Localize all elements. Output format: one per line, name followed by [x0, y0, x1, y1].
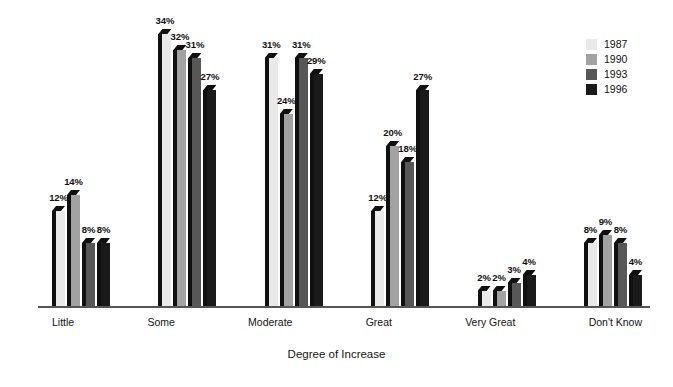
- bar-value-label: 27%: [201, 71, 220, 82]
- bar-value-label: 12%: [368, 192, 387, 203]
- bar-front-face: [314, 74, 323, 307]
- bar-value-label: 34%: [156, 15, 175, 26]
- bar-front-face: [177, 50, 186, 307]
- bar: 20%: [386, 146, 399, 307]
- x-axis-tick-label: Little: [52, 316, 74, 328]
- bar: 8%: [584, 243, 597, 307]
- bar-value-label: 3%: [507, 264, 521, 275]
- legend-label: 1990: [604, 54, 627, 65]
- bar-value-label: 14%: [64, 176, 83, 187]
- bar-value-label: 20%: [383, 127, 402, 138]
- bar: 29%: [310, 74, 323, 307]
- bar-value-label: 2%: [492, 272, 506, 283]
- bar: 32%: [173, 50, 186, 307]
- bar: 4%: [629, 275, 642, 307]
- bar-group: 34%32%31%27%: [158, 18, 216, 307]
- bar-group: 12%14%8%8%: [52, 18, 110, 307]
- bar: 2%: [493, 291, 506, 307]
- bar: 12%: [52, 211, 65, 307]
- legend-label: 1987: [604, 39, 627, 50]
- x-axis-title: Degree of Increase: [0, 348, 673, 360]
- bar: 8%: [97, 243, 110, 307]
- bar-front-face: [633, 275, 642, 307]
- bar: 3%: [508, 283, 521, 307]
- legend-label: 1996: [604, 84, 627, 95]
- bar-group: 31%24%31%29%: [265, 18, 323, 307]
- bar: 4%: [523, 275, 536, 307]
- bar: 8%: [614, 243, 627, 307]
- bar-value-label: 12%: [49, 192, 68, 203]
- bar-front-face: [299, 58, 308, 307]
- bar: 27%: [416, 90, 429, 307]
- bar-group: 2%2%3%4%: [478, 18, 536, 307]
- x-axis-tick-label: Great: [366, 316, 392, 328]
- bar-value-label: 8%: [82, 224, 96, 235]
- bar-front-face: [375, 211, 384, 307]
- bar-value-label: 27%: [413, 71, 432, 82]
- legend-swatch: [586, 69, 597, 80]
- bar-value-label: 9%: [599, 216, 613, 227]
- legend-item: 1990: [586, 53, 627, 66]
- x-axis-tick-label: Some: [147, 316, 174, 328]
- bar-value-label: 8%: [614, 224, 628, 235]
- bar-front-face: [390, 146, 399, 307]
- legend-swatch: [586, 84, 597, 95]
- chart-legend: 1987199019931996: [586, 38, 627, 96]
- bar-front-face: [284, 114, 293, 307]
- bar-value-label: 18%: [398, 143, 417, 154]
- legend-item: 1993: [586, 68, 627, 81]
- bar: 9%: [599, 235, 612, 307]
- x-axis-tick-label: Moderate: [248, 316, 292, 328]
- bar: 18%: [401, 162, 414, 307]
- bar-front-face: [162, 34, 171, 307]
- bar-front-face: [497, 291, 506, 307]
- bar-front-face: [618, 243, 627, 307]
- bar-value-label: 31%: [292, 39, 311, 50]
- legend-item: 1996: [586, 83, 627, 96]
- bar: 12%: [371, 211, 384, 307]
- bar-value-label: 31%: [186, 39, 205, 50]
- bar-value-label: 8%: [97, 224, 111, 235]
- x-axis-tick-labels: LittleSomeModerateGreatVery GreatDon't K…: [38, 316, 648, 328]
- bar-value-label: 4%: [629, 256, 643, 267]
- bar-front-face: [207, 90, 216, 307]
- legend-swatch: [586, 54, 597, 65]
- bar-value-label: 31%: [262, 39, 281, 50]
- plot-area: 12%14%8%8%34%32%31%27%31%24%31%29%12%20%…: [38, 18, 648, 307]
- bar-front-face: [512, 283, 521, 307]
- bar-value-label: 2%: [477, 272, 491, 283]
- bar: 14%: [67, 195, 80, 307]
- x-axis-tick-label: Very Great: [465, 316, 515, 328]
- bar-value-label: 4%: [522, 256, 536, 267]
- legend-item: 1987: [586, 38, 627, 51]
- legend-label: 1993: [604, 69, 627, 80]
- legend-swatch: [586, 39, 597, 50]
- bar: 8%: [82, 243, 95, 307]
- bar-front-face: [420, 90, 429, 307]
- bar-value-label: 24%: [277, 95, 296, 106]
- x-axis-line: [38, 306, 650, 308]
- bar: 31%: [295, 58, 308, 307]
- bar-front-face: [56, 211, 65, 307]
- x-axis-tick-label: Don't Know: [589, 316, 642, 328]
- bar-front-face: [192, 58, 201, 307]
- bar-front-face: [405, 162, 414, 307]
- bar: 31%: [265, 58, 278, 307]
- bar-front-face: [603, 235, 612, 307]
- bar-groups: 12%14%8%8%34%32%31%27%31%24%31%29%12%20%…: [38, 18, 648, 307]
- bar-front-face: [101, 243, 110, 307]
- bar-group: 12%20%18%27%: [371, 18, 429, 307]
- bar-front-face: [527, 275, 536, 307]
- bar: 27%: [203, 90, 216, 307]
- bar-value-label: 29%: [307, 55, 326, 66]
- bar-value-label: 8%: [584, 224, 598, 235]
- bar: 2%: [478, 291, 491, 307]
- bar: 24%: [280, 114, 293, 307]
- bar-front-face: [71, 195, 80, 307]
- bar-front-face: [86, 243, 95, 307]
- bar: 31%: [188, 58, 201, 307]
- bar: 34%: [158, 34, 171, 307]
- bar-chart: 12%14%8%8%34%32%31%27%31%24%31%29%12%20%…: [0, 0, 673, 387]
- bar-front-face: [482, 291, 491, 307]
- bar-front-face: [588, 243, 597, 307]
